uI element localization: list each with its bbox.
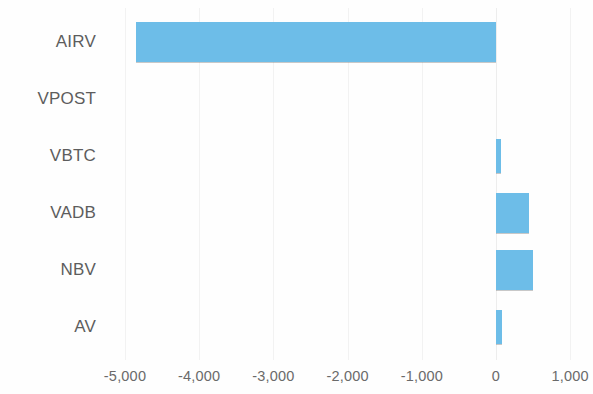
bar-vbtc[interactable] [496, 139, 501, 173]
x-tick-label: -3,000 [252, 368, 294, 384]
x-tick-label: -5,000 [104, 368, 146, 384]
x-axis: -5,000-4,000-3,000-2,000-1,00001,000 [0, 360, 593, 394]
x-tick-label: 1,000 [552, 368, 589, 384]
x-tick-label: -4,000 [178, 368, 220, 384]
category-row: VBTC [0, 127, 593, 184]
category-row: NBV [0, 241, 593, 298]
bar-chart: AIRVVPOSTVBTCVADBNBVAV -5,000-4,000-3,00… [0, 0, 593, 394]
category-row: AV [0, 298, 593, 355]
bar-track [0, 298, 593, 355]
x-tick-label: -1,000 [401, 368, 443, 384]
bar-vadb[interactable] [496, 193, 529, 233]
bar-track [0, 184, 593, 241]
plot-area: AIRVVPOSTVBTCVADBNBVAV [0, 0, 593, 360]
category-row: VADB [0, 184, 593, 241]
x-tick-label: 0 [492, 368, 500, 384]
category-row: AIRV [0, 13, 593, 70]
bar-track [0, 70, 593, 127]
bar-airv[interactable] [136, 22, 496, 62]
bar-nbv[interactable] [496, 250, 533, 290]
bar-track [0, 13, 593, 70]
bar-track [0, 127, 593, 184]
x-tick-label: -2,000 [326, 368, 368, 384]
bar-av[interactable] [496, 310, 502, 344]
bar-track [0, 241, 593, 298]
category-row: VPOST [0, 70, 593, 127]
